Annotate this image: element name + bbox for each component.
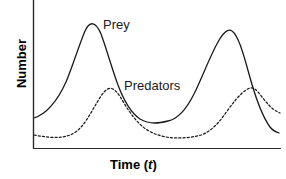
- x-axis-label-close: ): [152, 157, 156, 172]
- prey-series-label: Prey: [103, 18, 130, 31]
- y-axis-label: Number: [15, 34, 28, 94]
- x-axis-label: Time (t): [110, 158, 157, 171]
- predators-series-label: Predators: [124, 79, 180, 92]
- predator-prey-chart: Number Time (t) Prey Predators: [0, 0, 286, 179]
- predators-curve: [34, 88, 280, 138]
- x-axis-label-text: Time (: [110, 157, 148, 172]
